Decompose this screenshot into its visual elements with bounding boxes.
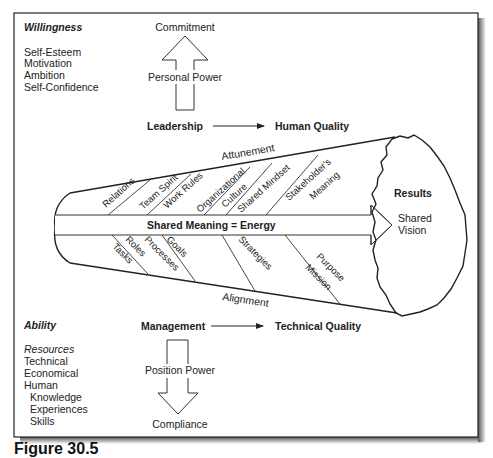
shared-meaning-label: Shared Meaning = Energy [147,219,276,231]
human-quality-label: Human Quality [275,120,349,132]
ability-sub-item: Skills [30,415,55,427]
ability-item: Human [24,379,58,391]
ability-heading: Ability [23,319,57,331]
willingness-item: Ambition [24,69,65,81]
management-label: Management [141,320,206,332]
ability-sub-item: Experiences [30,403,88,415]
frame-shadow-right [478,18,486,442]
ability-item: Economical [24,367,78,379]
figure-caption: Figure 30.5 [14,440,98,458]
commitment-label: Commitment [155,21,215,33]
results-heading: Results [394,187,432,199]
technical-quality-label: Technical Quality [275,320,361,332]
ability-item: Technical [24,355,68,367]
compliance-label: Compliance [152,418,208,430]
willingness-item: Motivation [24,57,72,69]
willingness-item: Self-Confidence [24,81,99,93]
position-power-label: Position Power [145,364,216,376]
results-shared: Shared [398,212,432,224]
ability-sub-item: Knowledge [30,391,82,403]
resources-subheading: Resources [24,343,75,355]
personal-power-label: Personal Power [148,71,223,83]
results-vision: Vision [398,224,427,236]
willingness-heading: Willingness [24,21,82,33]
leadership-label: Leadership [147,120,203,132]
